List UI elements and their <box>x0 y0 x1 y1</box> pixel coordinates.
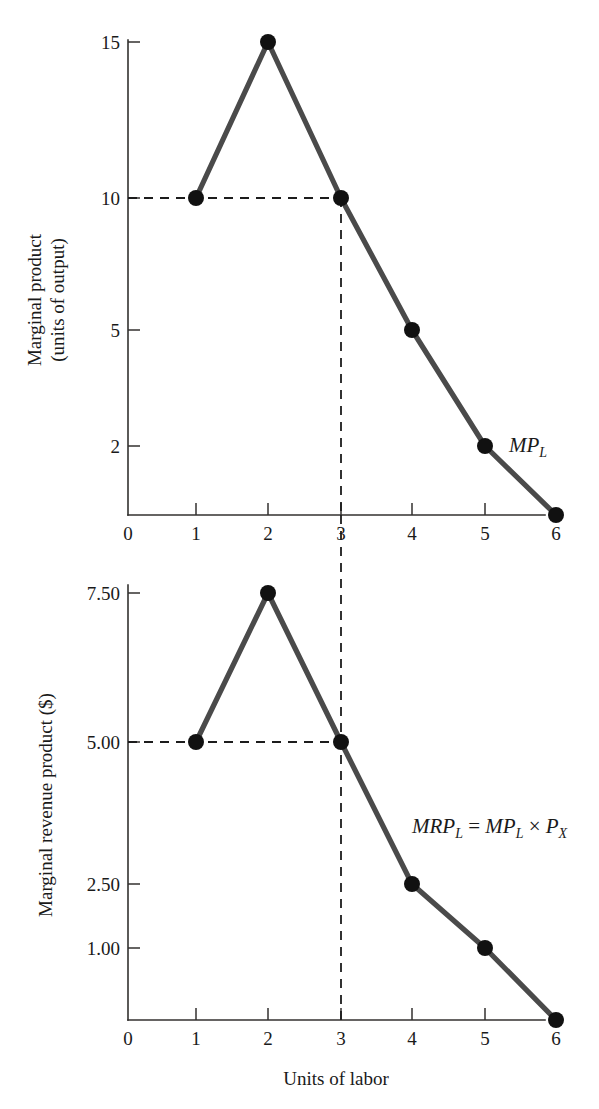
top-y-ticks <box>128 42 140 446</box>
figure-root: 15 10 5 2 0 1 2 3 4 5 6 <box>0 0 599 1109</box>
bottom-y-tick-label-100: 1.00 <box>87 938 120 959</box>
top-y-tick-label-15: 15 <box>101 32 120 53</box>
top-x-tick-label-1: 1 <box>191 523 201 544</box>
bottom-curve-mrpl <box>196 593 556 1020</box>
bottom-point-2 <box>260 585 276 601</box>
top-point-2 <box>260 34 276 50</box>
top-y-axis-title-line2: (units of output) <box>47 238 69 362</box>
formula-equals: = <box>463 814 485 838</box>
bottom-x-tick-label-5: 5 <box>480 1028 490 1049</box>
top-x-tick-label-5: 5 <box>480 523 490 544</box>
top-curve-mpl <box>196 42 556 515</box>
bottom-x-tick-label-6: 6 <box>551 1028 561 1049</box>
top-chart-panel: 15 10 5 2 0 1 2 3 4 5 6 <box>24 32 564 544</box>
top-y-tick-label-5: 5 <box>111 320 121 341</box>
two-panel-marginal-product-figure: 15 10 5 2 0 1 2 3 4 5 6 <box>0 0 599 1109</box>
bottom-chart-panel: 7.50 5.00 2.50 1.00 0 1 2 3 4 5 6 <box>35 583 568 1089</box>
formula-term-2: MP <box>484 814 515 838</box>
bottom-curve-label-formula: MRPL = MPL × PX <box>411 814 568 841</box>
top-point-4 <box>404 322 420 338</box>
top-point-1 <box>188 190 204 206</box>
formula-times: × <box>523 814 545 838</box>
bottom-point-4 <box>404 876 420 892</box>
bottom-point-1 <box>188 734 204 750</box>
bottom-y-tick-label-250: 2.50 <box>87 874 120 895</box>
top-curve-label-sub: L <box>538 445 547 460</box>
top-point-6 <box>548 507 564 523</box>
bottom-point-5 <box>477 940 493 956</box>
formula-sub-1: L <box>454 826 463 841</box>
top-x-tick-label-4: 4 <box>407 523 417 544</box>
formula-sub-3: X <box>558 826 568 841</box>
formula-term-3: P <box>545 814 559 838</box>
bottom-y-tick-label-500: 5.00 <box>87 732 120 753</box>
top-curve-label-mpl: MPL <box>508 433 547 460</box>
formula-sub-2: L <box>515 826 524 841</box>
formula-term-1: MRP <box>411 814 455 838</box>
bottom-x-tick-label-2: 2 <box>263 1028 273 1049</box>
top-point-5 <box>477 438 493 454</box>
top-point-3 <box>333 190 349 206</box>
bottom-y-tick-label-750: 7.50 <box>87 583 120 604</box>
top-x-tick-label-6: 6 <box>551 523 561 544</box>
bottom-x-tick-label-4: 4 <box>407 1028 417 1049</box>
top-data-markers <box>188 34 564 523</box>
top-x-tick-label-2: 2 <box>263 523 273 544</box>
bottom-y-ticks <box>128 593 140 948</box>
top-y-axis-title-line1: Marginal product <box>24 233 45 366</box>
top-x-tick-label-0: 0 <box>123 523 133 544</box>
top-y-tick-label-2: 2 <box>111 436 121 457</box>
top-curve-label-main: MP <box>508 433 539 457</box>
bottom-point-6 <box>548 1012 564 1028</box>
bottom-x-tick-label-1: 1 <box>191 1028 201 1049</box>
bottom-point-3 <box>333 734 349 750</box>
bottom-y-axis-title: Marginal revenue product ($) <box>35 693 57 917</box>
x-axis-title: Units of labor <box>283 1068 389 1089</box>
bottom-x-tick-label-3: 3 <box>336 1028 346 1049</box>
top-y-tick-label-10: 10 <box>101 188 120 209</box>
bottom-x-tick-label-0: 0 <box>123 1028 133 1049</box>
